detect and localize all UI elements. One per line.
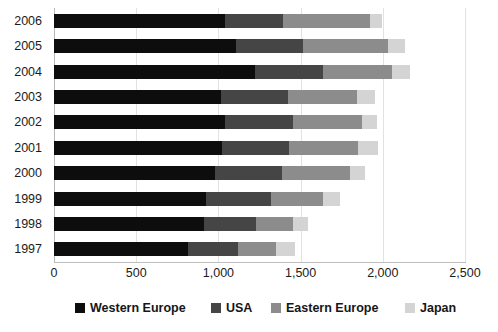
bar-segment-western-europe[interactable]: [54, 242, 188, 256]
bar-segment-western-europe[interactable]: [54, 115, 225, 129]
bar-segment-japan[interactable]: [357, 90, 375, 104]
bar-row[interactable]: [54, 166, 365, 180]
x-axis-value-labels: 05001,0001,5002,0002,500: [0, 266, 498, 286]
bar-segment-western-europe[interactable]: [54, 141, 222, 155]
bar-segment-japan[interactable]: [323, 192, 340, 206]
bar-segment-eastern-europe[interactable]: [303, 39, 388, 53]
bar-segment-eastern-europe[interactable]: [238, 242, 276, 256]
legend-label: Western Europe: [90, 301, 186, 315]
legend-label: USA: [226, 301, 252, 315]
bar-segment-usa[interactable]: [255, 65, 323, 79]
legend-swatch-icon: [405, 303, 415, 313]
bar-segment-usa[interactable]: [206, 192, 271, 206]
bar-segment-western-europe[interactable]: [54, 192, 206, 206]
x-axis-line: [54, 262, 466, 263]
legend-label: Japan: [420, 301, 456, 315]
x-tick-label-2000: 2,000: [367, 266, 398, 280]
x-tick-label-1500: 1,500: [285, 266, 316, 280]
y-tick-label-1998: 1998: [14, 217, 42, 231]
legend-item-eastern-europe[interactable]: Eastern Europe: [271, 300, 378, 316]
legend-item-western-europe[interactable]: Western Europe: [75, 300, 186, 316]
bar-segment-japan[interactable]: [276, 242, 295, 256]
bar-segment-western-europe[interactable]: [54, 166, 215, 180]
bar-segment-usa[interactable]: [225, 14, 283, 28]
legend-item-usa[interactable]: USA: [211, 300, 252, 316]
bars-layer: [54, 8, 465, 262]
y-tick-label-2005: 2005: [14, 39, 42, 53]
bar-segment-eastern-europe[interactable]: [283, 14, 370, 28]
y-tick-label-2001: 2001: [14, 141, 42, 155]
y-tick-label-2004: 2004: [14, 65, 42, 79]
y-tick-label-2003: 2003: [14, 90, 42, 104]
bar-segment-usa[interactable]: [236, 39, 303, 53]
bar-row[interactable]: [54, 192, 340, 206]
bar-segment-eastern-europe[interactable]: [256, 217, 293, 231]
bar-row[interactable]: [54, 90, 375, 104]
bar-row[interactable]: [54, 115, 377, 129]
bar-row[interactable]: [54, 65, 410, 79]
bar-segment-eastern-europe[interactable]: [289, 141, 358, 155]
bar-segment-japan[interactable]: [293, 217, 308, 231]
plot-area: [54, 8, 465, 262]
bar-segment-eastern-europe[interactable]: [293, 115, 362, 129]
y-tick-label-2002: 2002: [14, 115, 42, 129]
bar-segment-japan[interactable]: [358, 141, 378, 155]
bar-segment-usa[interactable]: [215, 166, 282, 180]
legend-item-japan[interactable]: Japan: [405, 300, 456, 316]
bar-row[interactable]: [54, 217, 308, 231]
bar-segment-eastern-europe[interactable]: [288, 90, 357, 104]
y-tick-label-1997: 1997: [14, 242, 42, 256]
bar-row[interactable]: [54, 14, 382, 28]
bar-segment-western-europe[interactable]: [54, 90, 221, 104]
x-tick-label-2500: 2,500: [449, 266, 480, 280]
x-tick-label-500: 500: [126, 266, 147, 280]
bar-segment-japan[interactable]: [350, 166, 365, 180]
gridline-2500: [465, 8, 466, 262]
bar-segment-japan[interactable]: [392, 65, 410, 79]
bar-segment-usa[interactable]: [222, 141, 289, 155]
bar-row[interactable]: [54, 39, 405, 53]
bar-segment-usa[interactable]: [225, 115, 293, 129]
x-tick-label-1000: 1,000: [203, 266, 234, 280]
y-tick-label-2006: 2006: [14, 14, 42, 28]
bar-segment-eastern-europe[interactable]: [323, 65, 392, 79]
bar-segment-western-europe[interactable]: [54, 65, 255, 79]
y-tick-label-2000: 2000: [14, 166, 42, 180]
stacked-bar-chart: 2006200520042003200220012000199919981997…: [0, 0, 498, 332]
bar-segment-japan[interactable]: [370, 14, 382, 28]
bar-segment-usa[interactable]: [204, 217, 256, 231]
bar-segment-japan[interactable]: [388, 39, 405, 53]
y-tick-label-1999: 1999: [14, 192, 42, 206]
legend-swatch-icon: [211, 303, 221, 313]
bar-segment-usa[interactable]: [188, 242, 238, 256]
legend-swatch-icon: [75, 303, 85, 313]
bar-segment-western-europe[interactable]: [54, 39, 236, 53]
bar-row[interactable]: [54, 242, 295, 256]
bar-segment-western-europe[interactable]: [54, 217, 204, 231]
bar-segment-western-europe[interactable]: [54, 14, 225, 28]
bar-segment-japan[interactable]: [362, 115, 377, 129]
legend-swatch-icon: [271, 303, 281, 313]
bar-segment-usa[interactable]: [221, 90, 288, 104]
y-axis-category-labels: 2006200520042003200220012000199919981997: [0, 8, 50, 262]
bar-segment-eastern-europe[interactable]: [282, 166, 350, 180]
bar-row[interactable]: [54, 141, 378, 155]
legend-label: Eastern Europe: [286, 301, 378, 315]
bar-segment-eastern-europe[interactable]: [271, 192, 323, 206]
chart-legend: Western EuropeUSAEastern EuropeJapan: [0, 300, 498, 322]
x-tick-label-0: 0: [51, 266, 58, 280]
